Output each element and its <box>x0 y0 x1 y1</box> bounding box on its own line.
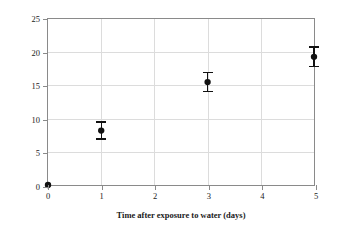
plot-area: 0510152025 012345 <box>47 18 315 186</box>
y-tick-mark <box>43 53 48 54</box>
data-point-day-5 <box>309 47 319 67</box>
data-series <box>48 19 314 185</box>
y-tick-mark <box>43 86 48 87</box>
x-axis-title: Time after exposure to water (days) <box>47 210 315 220</box>
data-point-day-1 <box>96 122 106 139</box>
y-tick-label: 15 <box>32 82 41 91</box>
x-tick-label: 3 <box>207 192 211 201</box>
x-tick-mark <box>316 185 317 190</box>
y-tick-label: 20 <box>32 48 41 57</box>
x-tick-mark <box>102 185 103 190</box>
y-tick-mark <box>43 19 48 20</box>
x-tick-label: 5 <box>314 192 318 201</box>
x-tick-mark <box>262 185 263 190</box>
y-tick-mark <box>43 153 48 154</box>
x-tick-label: 4 <box>260 192 264 201</box>
y-tick-label: 10 <box>32 116 41 125</box>
x-tick-mark <box>48 185 49 190</box>
x-tick-label: 0 <box>46 192 50 201</box>
x-tick-mark <box>155 185 156 190</box>
y-tick-mark <box>43 120 48 121</box>
point-marker <box>311 54 317 60</box>
respiration-rate-chart: Rate of respiration (μL O2/min) 05101520… <box>0 0 348 232</box>
y-tick-label: 25 <box>32 15 41 24</box>
x-tick-mark <box>209 185 210 190</box>
x-tick-label: 1 <box>99 192 103 201</box>
data-point-day-3 <box>203 73 213 92</box>
y-tick-label: 0 <box>36 183 40 192</box>
x-tick-label: 2 <box>153 192 157 201</box>
point-marker <box>204 79 210 85</box>
y-tick-label: 5 <box>36 149 40 158</box>
point-marker <box>98 127 104 133</box>
